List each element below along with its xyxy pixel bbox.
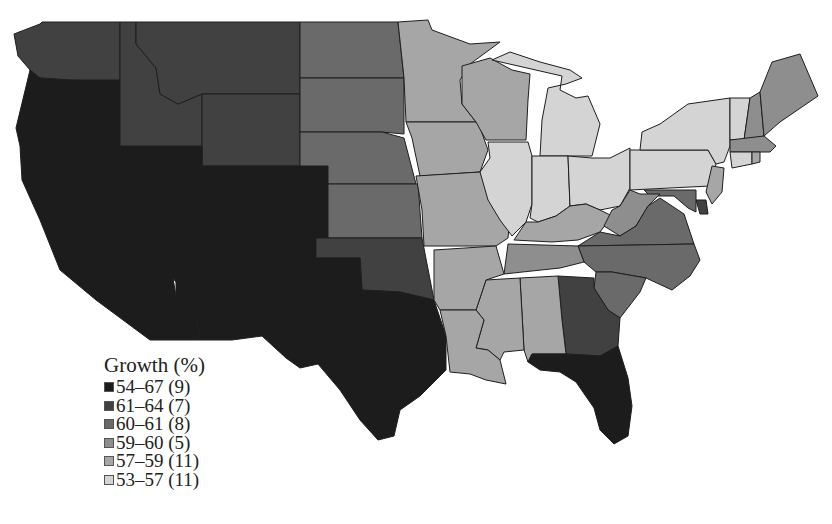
legend-item: 54–67 (9) [104,378,205,397]
legend-label: 60–61 (8) [116,415,190,434]
state-MT [136,22,300,104]
state-ME [760,54,818,136]
legend-label: 53–57 (11) [116,471,199,490]
state-RI [752,152,760,164]
state-CO [232,166,328,240]
legend-title: Growth (%) [104,354,205,376]
legend-item: 57–59 (11) [104,452,205,471]
legend-rows: 54–67 (9)61–64 (7)60–61 (8)59–60 (5)57–5… [104,378,205,489]
state-TN [504,244,584,274]
state-IA [406,122,488,176]
state-CT [730,152,752,168]
state-NM [232,240,318,340]
legend-swatch-icon [104,382,114,392]
state-ND [300,22,404,78]
legend-label: 54–67 (9) [116,378,190,397]
legend-swatch-icon [104,401,114,411]
state-PA [630,150,716,190]
state-OH [568,148,630,210]
state-DE [696,200,708,214]
legend-item: 60–61 (8) [104,415,205,434]
legend-swatch-icon [104,438,114,448]
legend-label: 57–59 (11) [116,452,199,471]
state-OR [16,70,126,146]
legend-item: 53–57 (11) [104,471,205,490]
state-FL [528,346,632,444]
legend-swatch-icon [104,456,114,466]
state-WY [202,94,300,166]
state-SD [300,78,404,134]
state-AL [520,276,566,362]
map-legend: Growth (%) 54–67 (9)61–64 (7)60–61 (8)59… [104,354,205,489]
legend-swatch-icon [104,419,114,429]
state-KS [328,184,422,238]
legend-swatch-icon [104,475,114,485]
